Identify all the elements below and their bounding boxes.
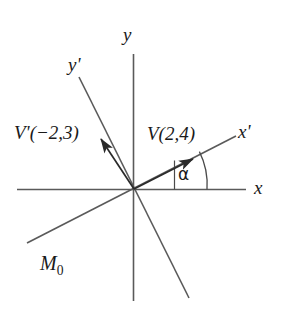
angle-arc	[199, 152, 207, 190]
vector-v-prime-arrow	[101, 139, 134, 189]
figure-container: y y' x x' V'(−2,3) V(2,4) α M0	[0, 0, 282, 318]
x-axis-label: x	[254, 178, 262, 197]
y-prime-axis-label: y'	[68, 55, 81, 74]
plane-label: M0	[40, 253, 63, 273]
rotation-angle-label: α	[178, 166, 189, 183]
plane-subscript: 0	[57, 263, 64, 278]
x-prime-axis-label: x'	[238, 122, 251, 141]
vector-v-label: V(2,4)	[147, 124, 195, 143]
plane-symbol: M	[40, 252, 57, 274]
vector-v-prime-label: V'(−2,3)	[14, 123, 79, 142]
y-axis-label: y	[123, 25, 131, 44]
